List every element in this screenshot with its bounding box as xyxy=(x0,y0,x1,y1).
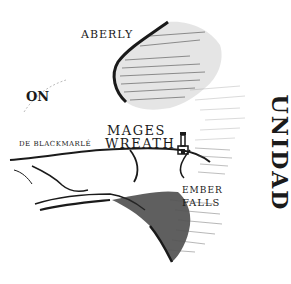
label-region-vertical: UNIDAD xyxy=(267,95,291,212)
map-canvas: ABERLY ON DE BLACKMARLÉ MAGES WREATH EMB… xyxy=(0,0,291,284)
label-wreath: WREATH xyxy=(105,136,175,151)
label-partial-west: ON xyxy=(26,89,49,104)
tower-icon xyxy=(176,130,190,156)
label-falls: FALLS xyxy=(182,197,220,208)
label-aberly: ABERLY xyxy=(81,28,133,41)
ridge-hatching xyxy=(195,148,232,174)
label-ember: EMBER xyxy=(182,185,223,195)
label-blackmarle: DE BLACKMARLÉ xyxy=(19,140,91,148)
